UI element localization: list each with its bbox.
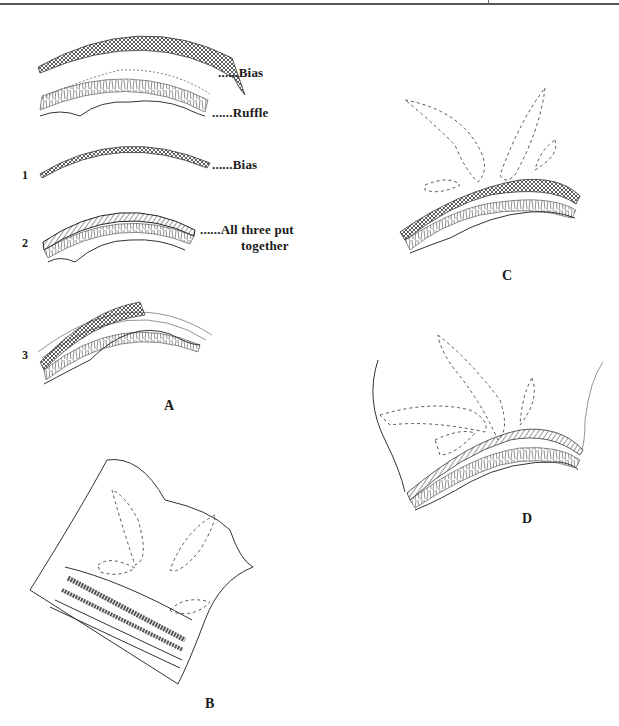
figure-d [373, 335, 603, 510]
step-number-1: 1 [22, 168, 28, 183]
figure-a-ruffle [40, 70, 210, 116]
figure-label-a: A [164, 398, 174, 414]
step-number-3: 3 [22, 348, 28, 363]
figure-a-bias-second [40, 146, 210, 178]
label-all-three: ......All three put [200, 222, 294, 238]
label-all-three-line2: together [241, 238, 289, 254]
figure-a-combined [43, 213, 195, 262]
figure-label-d: D [522, 511, 532, 527]
label-bias-top: ......Bias [218, 65, 263, 81]
figure-a-step3 [38, 302, 212, 384]
figure-c [400, 88, 580, 253]
figure-label-b: B [205, 696, 214, 712]
step-number-2: 2 [22, 236, 28, 251]
figure-label-c: C [502, 268, 512, 284]
label-ruffle: ......Ruffle [212, 105, 269, 121]
label-bias-second: ......Bias [212, 157, 257, 173]
illustrations [0, 0, 619, 726]
figure-b-fabric [30, 460, 253, 685]
